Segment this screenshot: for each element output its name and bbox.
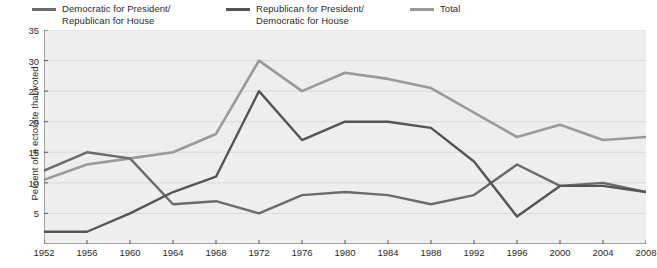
x-tick-label: 2008: [635, 247, 656, 258]
chart-legend: Democratic for President/ Republican for…: [0, 0, 648, 28]
x-axis-ticks: 1952195619601964196819721976198019841988…: [44, 247, 646, 265]
plot-svg: [44, 30, 646, 244]
legend-item-rep-pres-dem-house: Republican for President/ Democratic for…: [226, 3, 364, 26]
y-tick-label: 10: [28, 177, 39, 188]
x-tick-label: 2000: [549, 247, 570, 258]
x-tick-label: 1984: [377, 247, 398, 258]
legend-item-dem-pres-rep-house: Democratic for President/ Republican for…: [32, 3, 170, 26]
legend-label-dem-pres-rep-house: Democratic for President/ Republican for…: [62, 3, 170, 26]
x-tick-label: 1960: [119, 247, 140, 258]
legend-label-total: Total: [440, 3, 460, 15]
x-tick-label: 1956: [76, 247, 97, 258]
plot-area: [44, 30, 646, 244]
legend-label-rep-pres-dem-house: Republican for President/ Democratic for…: [256, 3, 364, 26]
x-tick-label: 1968: [205, 247, 226, 258]
x-tick-label: 2004: [592, 247, 613, 258]
y-tick-label: 5: [34, 208, 39, 219]
x-tick-label: 1952: [33, 247, 54, 258]
x-tick-label: 1964: [162, 247, 183, 258]
legend-swatch-rep-pres-dem-house: [226, 8, 250, 11]
x-tick-label: 1992: [463, 247, 484, 258]
x-tick-label: 1996: [506, 247, 527, 258]
x-tick-label: 1980: [334, 247, 355, 258]
legend-item-total: Total: [410, 3, 460, 15]
y-tick-label: 30: [28, 55, 39, 66]
y-tick-label: 35: [28, 25, 39, 36]
y-tick-label: 25: [28, 86, 39, 97]
x-tick-label: 1976: [291, 247, 312, 258]
y-tick-label: 15: [28, 147, 39, 158]
legend-swatch-dem-pres-rep-house: [32, 8, 56, 11]
legend-swatch-total: [410, 8, 434, 11]
x-tick-label: 1972: [248, 247, 269, 258]
x-tick-label: 1988: [420, 247, 441, 258]
y-tick-label: 20: [28, 116, 39, 127]
y-axis-ticks: 5101520253035: [0, 30, 44, 244]
